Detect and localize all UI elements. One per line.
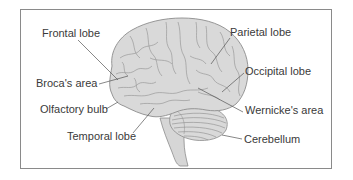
- label-olfactory-bulb: Olfactory bulb: [40, 103, 108, 115]
- label-wernickes-area: Wernicke's area: [245, 104, 323, 116]
- label-cerebellum: Cerebellum: [244, 133, 300, 145]
- label-temporal-lobe: Temporal lobe: [67, 130, 136, 142]
- leader-cerebellum: [222, 135, 242, 139]
- label-parietal-lobe: Parietal lobe: [230, 26, 291, 38]
- label-occipital-lobe: Occipital lobe: [245, 65, 311, 77]
- cerebrum-shape: [110, 18, 248, 117]
- label-frontal-lobe: Frontal lobe: [42, 27, 100, 39]
- label-brocas-area: Broca's area: [36, 77, 97, 89]
